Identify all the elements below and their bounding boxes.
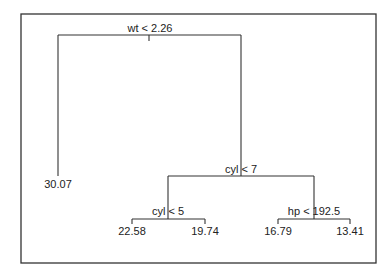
- split-label-cyl5: cyl < 5: [152, 205, 184, 217]
- tree-plot: wt < 2.26 30.07 cyl < 7 cyl < 5 22.58 19…: [0, 0, 389, 273]
- leaf-label-19-74: 19.74: [191, 225, 219, 237]
- split-label-cyl7: cyl < 7: [225, 163, 257, 175]
- leaf-label-13-41: 13.41: [336, 225, 364, 237]
- leaf-label-22-58: 22.58: [118, 225, 146, 237]
- leaf-label-30-07: 30.07: [44, 178, 72, 190]
- split-node-cyl7: cyl < 7: [168, 163, 314, 176]
- leaf-label-16-79: 16.79: [264, 225, 292, 237]
- split-node-cyl5: cyl < 5: [132, 205, 205, 224]
- split-label-hp: hp < 192.5: [288, 205, 340, 217]
- split-node-wt: wt < 2.26: [58, 22, 241, 41]
- split-node-hp: hp < 192.5: [278, 205, 350, 224]
- split-label-wt: wt < 2.26: [127, 22, 173, 34]
